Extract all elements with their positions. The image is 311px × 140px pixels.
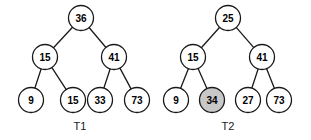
tree-edge — [119, 67, 131, 90]
tree-node-label: 25 — [222, 13, 234, 24]
tree-node: 41 — [250, 45, 275, 70]
tree-node-label: 27 — [242, 95, 254, 106]
tree-node-label: 41 — [256, 52, 268, 63]
tree-edge — [53, 26, 73, 48]
tree-edge — [266, 68, 275, 90]
tree-node: 15 — [33, 45, 58, 70]
tree-caption-t1: T1 — [74, 120, 87, 132]
tree-edge — [180, 68, 189, 90]
tree-node: 9 — [164, 88, 189, 113]
tree-node-label: 15 — [67, 95, 79, 106]
tree-edge — [88, 27, 106, 48]
tree-node: 27 — [236, 88, 261, 113]
tree-edge — [104, 68, 111, 89]
tree-edge — [51, 67, 66, 91]
tree-node-label: 33 — [94, 95, 106, 106]
tree-node-label: 15 — [39, 52, 51, 63]
tree-node: 9 — [19, 88, 44, 113]
tree-node: 41 — [102, 45, 127, 70]
tree-edge — [252, 68, 259, 89]
tree-node-label: 34 — [206, 95, 218, 106]
tree-node-label: 9 — [173, 95, 179, 106]
tree-group-t1: 3615419153373T1 — [19, 6, 150, 133]
tree-caption-t2: T2 — [222, 120, 235, 132]
tree-node: 15 — [181, 45, 206, 70]
tree-edge — [201, 27, 221, 49]
tree-group-t2: 2515419342773T2 — [164, 6, 292, 133]
tree-edge — [198, 68, 208, 90]
tree-node: 73 — [267, 88, 292, 113]
tree-node-label: 73 — [273, 95, 285, 106]
tree-node-label: 15 — [187, 52, 199, 63]
tree-node: 73 — [125, 88, 150, 113]
tree-edge — [236, 27, 255, 49]
tree-node: 15 — [61, 88, 86, 113]
tree-node: 36 — [69, 6, 94, 31]
tree-node-label: 9 — [28, 95, 34, 106]
binary-tree-figure: 3615419153373T1 2515419342773T2 — [0, 0, 311, 140]
trees-canvas: 3615419153373T1 2515419342773T2 — [0, 0, 311, 140]
tree-node-label: 36 — [75, 13, 87, 24]
tree-node: 25 — [216, 6, 241, 31]
tree-node: 34 — [200, 88, 225, 113]
tree-node-label: 73 — [131, 95, 143, 106]
tree-node-label: 41 — [108, 52, 120, 63]
tree-node: 33 — [88, 88, 113, 113]
tree-edge — [35, 68, 42, 89]
